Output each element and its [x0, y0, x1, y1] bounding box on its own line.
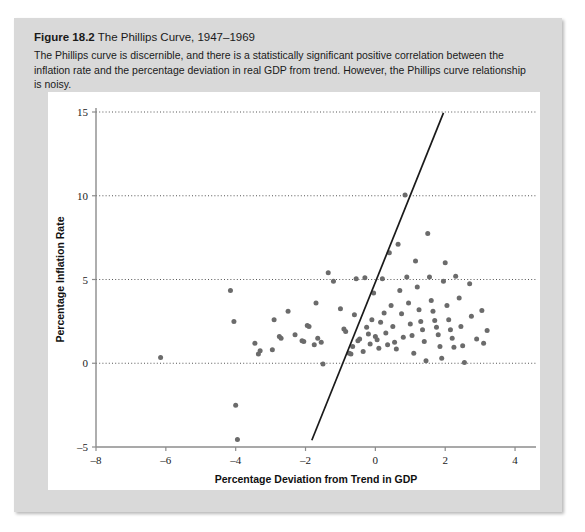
data-point	[406, 300, 411, 305]
scatter-plot: –5051015–8–6–4–2024Percentage Deviation …	[48, 92, 540, 490]
data-point	[270, 347, 275, 352]
data-point	[352, 312, 357, 317]
data-points	[158, 192, 490, 442]
y-tick-label: 15	[77, 106, 89, 118]
data-point	[451, 345, 456, 350]
data-point	[233, 403, 238, 408]
data-point	[422, 339, 427, 344]
data-point	[479, 308, 484, 313]
data-point	[338, 306, 343, 311]
data-point	[389, 303, 394, 308]
data-point	[354, 276, 359, 281]
data-point	[441, 279, 446, 284]
data-point	[415, 285, 420, 290]
x-tick-label: –6	[159, 454, 172, 466]
y-tick-label: –5	[76, 441, 89, 453]
data-point	[450, 336, 455, 341]
data-point	[364, 325, 369, 330]
data-point	[427, 274, 432, 279]
data-point	[401, 335, 406, 340]
figure-card: Figure 18.2 The Phillips Curve, 1947–196…	[14, 18, 562, 512]
data-point	[366, 331, 371, 336]
axis-lines	[96, 108, 536, 447]
x-axis-title: Percentage Deviation from Trend in GDP	[215, 473, 417, 485]
data-point	[326, 270, 331, 275]
data-point	[474, 336, 479, 341]
data-point	[462, 360, 467, 365]
data-point	[228, 288, 233, 293]
data-point	[376, 346, 381, 351]
data-point	[446, 317, 451, 322]
data-point	[385, 342, 390, 347]
x-tick-label: –2	[299, 454, 311, 466]
plot-panel: –5051015–8–6–4–2024Percentage Deviation …	[48, 92, 540, 490]
data-point	[458, 324, 463, 329]
data-point	[411, 351, 416, 356]
data-point	[418, 319, 423, 324]
data-point	[432, 318, 437, 323]
data-point	[231, 319, 236, 324]
data-point	[380, 276, 385, 281]
data-point	[467, 281, 472, 286]
data-point	[460, 343, 465, 348]
y-axis-title: Percentage Inflation Rate	[54, 216, 66, 342]
data-point	[397, 288, 402, 293]
data-point	[404, 274, 409, 279]
data-point	[408, 321, 413, 326]
trend-line	[312, 113, 444, 440]
data-point	[485, 328, 490, 333]
axis-tick-labels: –5051015–8–6–4–2024Percentage Deviation …	[54, 106, 518, 485]
data-point	[429, 298, 434, 303]
data-point	[410, 333, 415, 338]
data-point	[394, 347, 399, 352]
data-point	[469, 314, 474, 319]
data-point	[425, 231, 430, 236]
data-point	[348, 352, 353, 357]
data-point	[331, 279, 336, 284]
data-point	[343, 329, 348, 334]
data-point	[420, 327, 425, 332]
figure-description: The Phillips curve is discernible, and t…	[34, 48, 526, 91]
data-point	[457, 295, 462, 300]
data-point	[396, 242, 401, 247]
data-point	[279, 336, 284, 341]
data-point	[403, 192, 408, 197]
gridlines	[96, 112, 536, 363]
x-tick-label: –4	[229, 454, 242, 466]
data-point	[444, 303, 449, 308]
data-point	[293, 332, 298, 337]
data-point	[417, 307, 422, 312]
y-tick-label: 5	[83, 274, 89, 286]
x-tick-label: 2	[442, 454, 448, 466]
x-tick-label: 0	[373, 454, 379, 466]
x-tick-label: 4	[512, 454, 518, 466]
data-point	[424, 358, 429, 363]
data-point	[443, 260, 448, 265]
data-point	[413, 259, 418, 264]
data-point	[362, 275, 367, 280]
data-point	[314, 300, 319, 305]
data-point	[437, 344, 442, 349]
figure-caption: Figure 18.2 The Phillips Curve, 1947–196…	[34, 30, 534, 92]
data-point	[436, 332, 441, 337]
data-point	[319, 340, 324, 345]
x-tick-label: –8	[90, 454, 103, 466]
figure-number: Figure 18.2	[34, 31, 95, 43]
data-point	[399, 311, 404, 316]
data-point	[369, 317, 374, 322]
data-point	[453, 274, 458, 279]
data-point	[368, 341, 373, 346]
figure-title: Figure 18.2 The Phillips Curve, 1947–196…	[34, 30, 534, 44]
data-point	[439, 356, 444, 361]
data-point	[158, 355, 163, 360]
data-point	[378, 320, 383, 325]
data-point	[357, 336, 362, 341]
data-point	[256, 352, 261, 357]
axis-ticks	[92, 112, 515, 451]
data-point	[375, 337, 380, 342]
data-point	[434, 325, 439, 330]
data-point	[272, 317, 277, 322]
data-point	[481, 341, 486, 346]
data-point	[382, 311, 387, 316]
data-point	[307, 324, 312, 329]
